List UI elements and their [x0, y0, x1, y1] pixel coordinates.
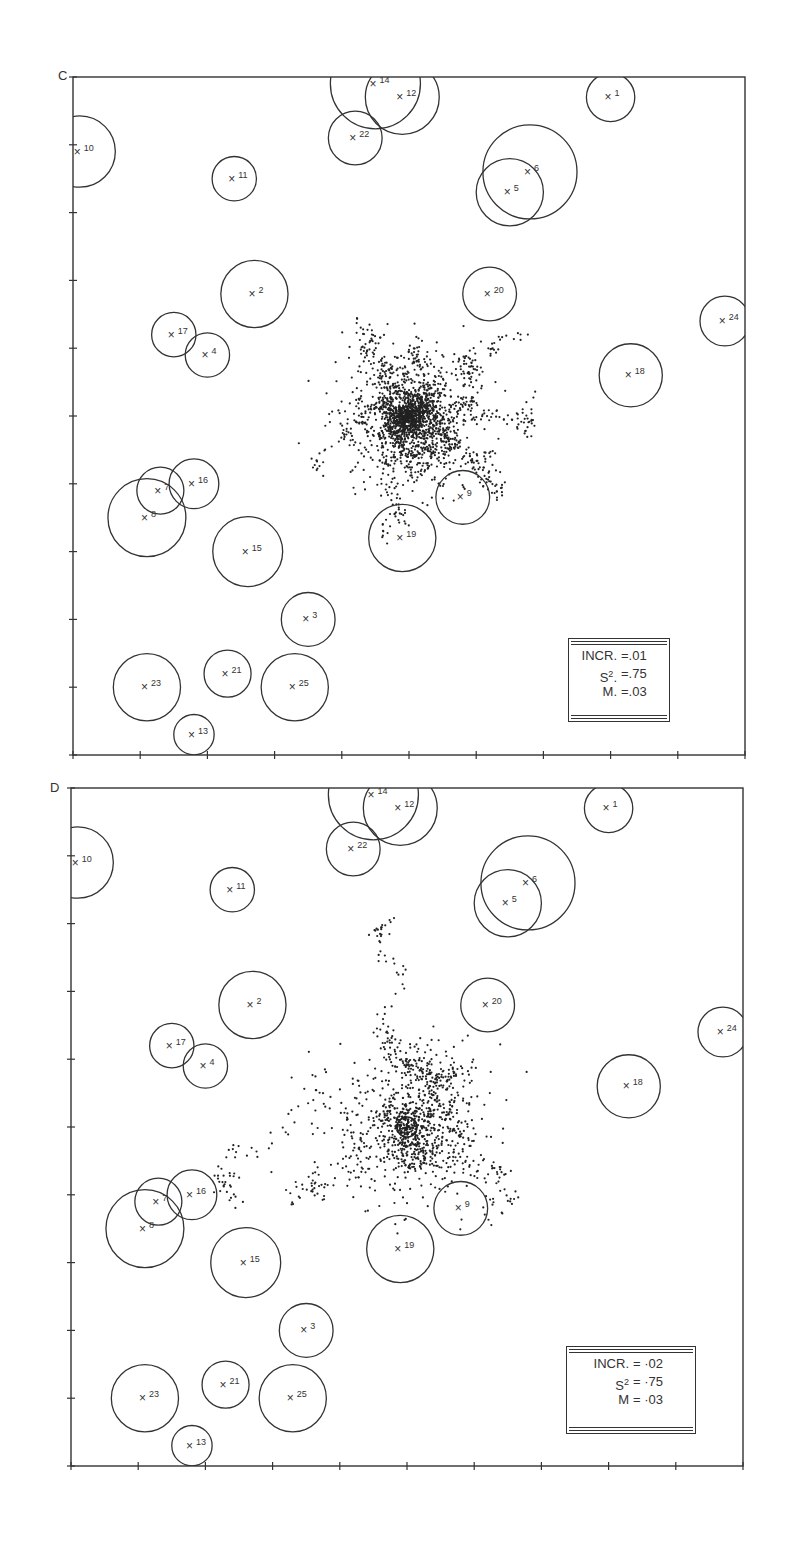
site-marker: ×: [188, 728, 195, 742]
legend-key: INCR.: [569, 647, 621, 665]
site-marker: ×: [369, 77, 376, 91]
site-20: ×20: [461, 978, 515, 1032]
site-21: ×21: [204, 650, 251, 697]
site-marker: ×: [188, 477, 195, 491]
site-13: ×13: [174, 715, 214, 755]
site-label: 8: [149, 1220, 154, 1230]
site-label: 13: [198, 726, 208, 736]
site-22: ×22: [326, 822, 380, 876]
site-marker: ×: [242, 545, 249, 559]
site-18: ×18: [599, 344, 662, 407]
site-11: ×11: [210, 868, 254, 912]
site-label: 21: [232, 665, 242, 675]
site-marker: ×: [141, 511, 148, 525]
site-label: 20: [494, 285, 504, 295]
site-4: ×4: [183, 1044, 227, 1088]
site-marker: ×: [166, 1039, 173, 1053]
site-marker: ×: [186, 1188, 193, 1202]
legend-row: S2 = ·75: [567, 1373, 695, 1391]
site-10: ×10: [42, 827, 113, 898]
site-marker: ×: [603, 801, 610, 815]
site-marker: ×: [220, 1378, 227, 1392]
site-marker: ×: [240, 1256, 247, 1270]
site-23: ×23: [113, 654, 180, 721]
site-label: 15: [250, 1254, 260, 1264]
legend-value: =.03: [621, 683, 669, 701]
site-marker: ×: [717, 1025, 724, 1039]
legend-key: S2.: [569, 665, 621, 683]
site-label: 5: [512, 894, 517, 904]
site-marker: ×: [302, 612, 309, 626]
site-label: 2: [258, 285, 263, 295]
site-label: 10: [82, 854, 92, 864]
site-marker: ×: [226, 883, 233, 897]
site-marker: ×: [199, 1059, 206, 1073]
site-3: ×3: [279, 1304, 333, 1358]
site-marker: ×: [347, 842, 354, 856]
legend-row: INCR. =.01: [569, 647, 669, 665]
site-label: 11: [238, 170, 247, 180]
site-label: 9: [465, 1199, 470, 1209]
site-marker: ×: [484, 287, 491, 301]
site-1: ×1: [584, 784, 632, 832]
site-18: ×18: [597, 1055, 660, 1118]
site-9: ×9: [436, 470, 490, 524]
site-21: ×21: [202, 1361, 249, 1408]
site-label: 6: [534, 163, 539, 173]
site-marker: ×: [72, 856, 79, 870]
site-marker: ×: [394, 801, 401, 815]
site-marker: ×: [141, 680, 148, 694]
site-8: ×8: [106, 1190, 184, 1268]
site-23: ×23: [111, 1365, 178, 1432]
site-15: ×15: [213, 517, 283, 587]
site-label: 17: [178, 326, 188, 336]
site-marker: ×: [504, 185, 511, 199]
site-marker: ×: [168, 328, 175, 342]
site-2: ×2: [219, 971, 286, 1038]
site-marker: ×: [154, 484, 161, 498]
site-15: ×15: [211, 1228, 281, 1298]
site-marker: ×: [524, 165, 531, 179]
site-label: 10: [84, 143, 94, 153]
site-label: 25: [299, 678, 309, 688]
site-label: 12: [406, 88, 416, 98]
legend-value: = ·02: [633, 1355, 695, 1373]
site-label: 3: [312, 610, 317, 620]
site-marker: ×: [605, 90, 612, 104]
site-13: ×13: [172, 1426, 212, 1466]
site-25: ×25: [261, 654, 328, 721]
site-14: ×14: [330, 39, 420, 129]
site-label: 9: [467, 488, 472, 498]
site-11: ×11: [212, 157, 256, 201]
site-marker: ×: [457, 490, 464, 504]
site-7: ×7: [137, 467, 184, 514]
site-16: ×16: [167, 1170, 217, 1220]
site-label: 3: [310, 1321, 315, 1331]
site-marker: ×: [246, 998, 253, 1012]
site-marker: ×: [74, 145, 81, 159]
site-marker: ×: [394, 1242, 401, 1256]
site-12: ×12: [365, 60, 439, 134]
site-label: 6: [532, 874, 537, 884]
site-label: 17: [176, 1037, 186, 1047]
site-marker: ×: [201, 348, 208, 362]
legend-key: INCR.: [567, 1355, 633, 1373]
site-1: ×1: [586, 73, 634, 121]
site-label: 19: [404, 1240, 414, 1250]
site-marker: ×: [289, 680, 296, 694]
trajectory-dots: [213, 917, 528, 1235]
site-label: 4: [209, 1057, 214, 1067]
site-marker: ×: [502, 896, 509, 910]
panel-d: D ×1×2×3×4×5×6×7×8×9×10×11×12×14×13×15×1…: [0, 770, 792, 1546]
site-label: 18: [633, 1077, 643, 1087]
site-marker: ×: [396, 531, 403, 545]
site-22: ×22: [328, 111, 382, 165]
legend-row: S2. =.75: [569, 665, 669, 683]
legend-row: M = ·03: [567, 1391, 695, 1409]
site-marker: ×: [287, 1391, 294, 1405]
site-12: ×12: [363, 771, 437, 845]
site-label: 22: [357, 840, 367, 850]
site-label: 25: [297, 1389, 307, 1399]
legend-row: INCR. = ·02: [567, 1355, 695, 1373]
site-17: ×17: [152, 312, 196, 356]
